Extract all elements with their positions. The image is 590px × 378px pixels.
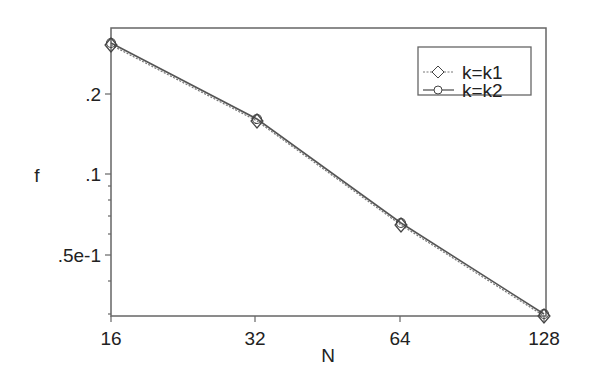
legend-label: k=k2 — [462, 80, 503, 101]
x-tick-label: 32 — [244, 328, 265, 349]
x-axis-title: N — [321, 345, 335, 366]
chart: .2 .1 .5e-1 16 32 64 128 N f k=k1 — [0, 0, 590, 378]
circle-icon — [434, 86, 442, 94]
x-tick-label: 128 — [528, 328, 560, 349]
legend: k=k1 k=k2 — [418, 47, 531, 101]
y-tick-label: .2 — [85, 84, 101, 105]
y-axis-title: f — [34, 165, 40, 186]
y-tick-label: .1 — [85, 164, 101, 185]
x-axis — [111, 316, 544, 322]
x-tick-label: 16 — [100, 328, 121, 349]
y-tick-label: .5e-1 — [58, 245, 101, 266]
y-axis — [105, 94, 111, 314]
x-tick-label: 64 — [389, 328, 411, 349]
